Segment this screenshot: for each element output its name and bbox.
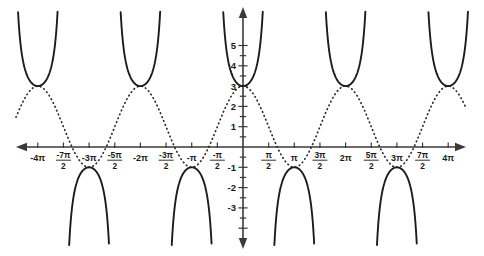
x-tick-label: 4π	[442, 153, 454, 163]
y-tick-label: 4	[231, 60, 237, 71]
y-tick-label: 2	[231, 101, 236, 112]
y-axis-down-arrow	[239, 238, 247, 249]
y-tick-label: -1	[228, 162, 237, 173]
x-tick-label-denominator: 2	[61, 161, 66, 171]
x-tick-label-numerator: 3π	[314, 150, 326, 160]
x-tick-label-denominator: 2	[420, 161, 425, 171]
x-tick-label-denominator: 2	[112, 161, 117, 171]
x-tick-label: -2π	[133, 153, 148, 163]
y-axis-up-arrow	[239, 7, 247, 18]
x-axis-right-arrow	[455, 143, 466, 151]
x-tick-label: -π	[187, 153, 197, 163]
trig-graph-svg: -4π-7π2-3π-5π2-2π-3π2-π-π2π2π3π22π5π23π7…	[0, 0, 484, 256]
secant-branch	[172, 167, 212, 245]
x-tick-label-denominator: 2	[266, 161, 271, 171]
y-tick-label: 1	[231, 121, 237, 132]
secant-branch	[18, 12, 57, 86]
x-tick-label-numerator: -π	[213, 150, 223, 160]
secant-branch	[274, 167, 314, 245]
x-tick-label: -4π	[30, 153, 45, 163]
secant-branch	[121, 12, 160, 86]
y-tick-label: 5	[231, 40, 237, 51]
x-tick-label-denominator: 2	[318, 161, 323, 171]
y-tick-label: -2	[228, 182, 236, 193]
x-tick-label: 2π	[340, 153, 352, 163]
x-tick-label-numerator: 7π	[417, 150, 429, 160]
x-tick-label-denominator: 2	[369, 161, 374, 171]
x-tick-label-numerator: -7π	[57, 150, 71, 160]
secant-branch	[326, 12, 365, 86]
x-tick-label: -3π	[82, 153, 97, 163]
x-tick-label-numerator: -5π	[108, 150, 122, 160]
graph-figure: -4π-7π2-3π-5π2-2π-3π2-π-π2π2π3π22π5π23π7…	[0, 0, 484, 256]
x-tick-label: 3π	[391, 153, 403, 163]
x-tick-label-numerator: π	[265, 150, 272, 160]
x-tick-label-denominator: 2	[164, 161, 169, 171]
secant-branch	[428, 12, 467, 86]
y-tick-label: -3	[228, 202, 236, 213]
secant-branch	[377, 167, 417, 245]
x-tick-label-numerator: -3π	[159, 150, 173, 160]
axes-group	[16, 7, 466, 249]
x-tick-label: π	[291, 153, 298, 163]
x-axis-left-arrow	[16, 143, 27, 151]
x-tick-label-denominator: 2	[215, 161, 220, 171]
x-tick-label-numerator: 5π	[366, 150, 378, 160]
secant-branch	[69, 167, 109, 245]
